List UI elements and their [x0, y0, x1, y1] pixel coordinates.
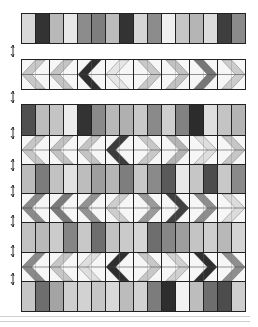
chevron-left-icon — [106, 136, 133, 164]
chevron-block — [106, 253, 134, 281]
fabric-bar — [190, 282, 204, 311]
fabric-bar — [36, 282, 50, 311]
fabric-bar — [50, 105, 64, 135]
fabric-bar — [92, 223, 106, 252]
fabric-bar — [36, 105, 50, 135]
fabric-bar — [148, 282, 162, 311]
fabric-bar — [148, 105, 162, 135]
fabric-bar — [176, 223, 190, 252]
fabric-bar — [162, 165, 176, 193]
fabric-bar — [78, 165, 92, 193]
chevron-left-icon — [106, 60, 133, 89]
chevron-right-icon — [134, 253, 161, 281]
chevron-block — [162, 253, 190, 281]
fabric-bar — [190, 105, 204, 135]
quilt-chevron-row — [21, 252, 246, 282]
fabric-bar — [106, 105, 120, 135]
chevron-right-icon — [218, 60, 245, 89]
chevron-right-icon — [134, 60, 161, 89]
fabric-bar — [22, 14, 36, 43]
chevron-right-icon — [162, 194, 189, 222]
fabric-bar — [176, 165, 190, 193]
chevron-block — [190, 253, 218, 281]
chevron-left-icon — [50, 136, 77, 164]
fabric-bar — [204, 105, 218, 135]
chevron-block — [162, 136, 190, 164]
chevron-left-icon — [50, 60, 77, 89]
chevron-block — [134, 60, 162, 89]
double-arrow-icon — [9, 272, 17, 286]
fabric-bar — [50, 14, 64, 43]
fabric-bar — [232, 165, 245, 193]
double-arrow-icon — [9, 44, 17, 58]
divider-line — [0, 321, 250, 322]
chevron-block — [190, 194, 218, 222]
double-arrow-icon — [9, 214, 17, 228]
chevron-block — [134, 194, 162, 222]
fabric-bar — [218, 282, 232, 311]
fabric-bar — [218, 223, 232, 252]
top-bar-strip — [21, 13, 246, 44]
fabric-bar — [64, 14, 78, 43]
chevron-left-icon — [50, 253, 77, 281]
chevron-block — [22, 253, 50, 281]
fabric-bar — [22, 105, 36, 135]
chevron-right-icon — [218, 194, 245, 222]
chevron-block — [218, 136, 245, 164]
chevron-right-icon — [134, 194, 161, 222]
fabric-bar — [64, 105, 78, 135]
fabric-bar — [190, 14, 204, 43]
chevron-right-icon — [190, 253, 217, 281]
fabric-bar — [162, 105, 176, 135]
fabric-bar — [190, 165, 204, 193]
fabric-bar — [78, 282, 92, 311]
chevron-block — [22, 60, 50, 89]
chevron-block — [218, 253, 245, 281]
fabric-bar — [120, 105, 134, 135]
fabric-bar — [162, 14, 176, 43]
double-arrow-icon — [9, 184, 17, 198]
fabric-bar — [106, 14, 120, 43]
chevron-right-icon — [162, 136, 189, 164]
fabric-bar — [36, 165, 50, 193]
fabric-bar — [204, 14, 218, 43]
fabric-bar — [120, 14, 134, 43]
chevron-left-icon — [22, 194, 49, 222]
chevron-left-icon — [78, 194, 105, 222]
chevron-block — [50, 194, 78, 222]
chevron-block — [218, 60, 245, 89]
fabric-bar — [78, 105, 92, 135]
chevron-left-icon — [22, 253, 49, 281]
chevron-right-icon — [190, 60, 217, 89]
fabric-bar — [106, 223, 120, 252]
fabric-bar — [50, 165, 64, 193]
fabric-bar — [92, 282, 106, 311]
fabric-bar — [120, 165, 134, 193]
chevron-block — [22, 194, 50, 222]
chevron-left-icon — [22, 136, 49, 164]
chevron-left-icon — [22, 60, 49, 89]
fabric-bar — [78, 14, 92, 43]
fabric-bar — [64, 223, 78, 252]
fabric-bar — [176, 14, 190, 43]
fabric-bar — [232, 105, 245, 135]
fabric-bar — [106, 165, 120, 193]
chevron-block — [78, 253, 106, 281]
fabric-bar — [50, 282, 64, 311]
fabric-bar — [232, 14, 245, 43]
chevron-left-icon — [50, 194, 77, 222]
chevron-left-icon — [106, 194, 133, 222]
chevron-left-icon — [78, 136, 105, 164]
fabric-bar — [218, 105, 232, 135]
chevron-left-icon — [78, 253, 105, 281]
fabric-bar — [134, 282, 148, 311]
fabric-bar — [106, 282, 120, 311]
divider-line — [0, 316, 250, 317]
chevron-block — [190, 136, 218, 164]
double-arrow-icon — [9, 244, 17, 258]
fabric-bar — [64, 165, 78, 193]
fabric-bar — [78, 223, 92, 252]
fabric-bar — [134, 105, 148, 135]
double-arrow-icon — [9, 90, 17, 104]
fabric-bar — [162, 282, 176, 311]
